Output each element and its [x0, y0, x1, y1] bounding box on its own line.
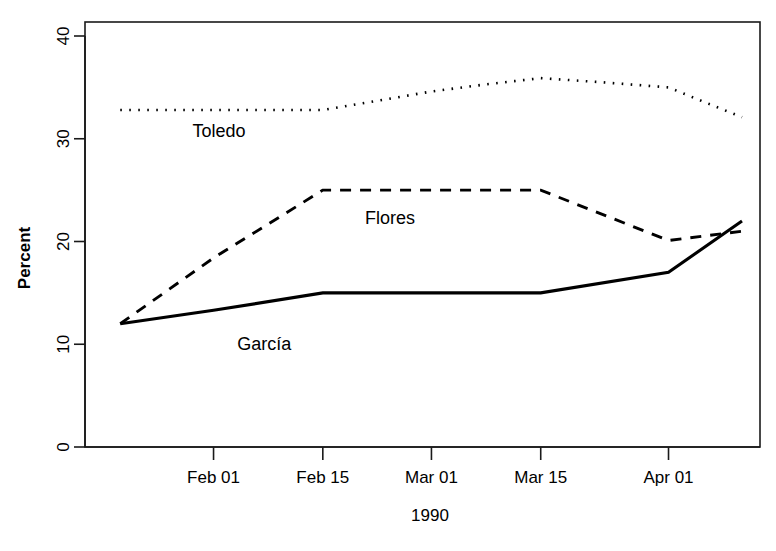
series-annotations: ToledoFloresGarcía — [192, 121, 415, 355]
series-line-flores — [120, 190, 742, 324]
chart-container: 010203040 Feb 01Feb 15Mar 01Mar 15Apr 01… — [0, 0, 776, 551]
y-tick-label: 30 — [54, 129, 73, 148]
x-axis-title: 1990 — [411, 506, 449, 525]
x-tick-label: Mar 15 — [514, 468, 567, 487]
x-tick-label: Mar 01 — [405, 468, 458, 487]
data-series-group — [120, 78, 742, 324]
series-line-garca — [120, 221, 742, 324]
x-tick-label: Apr 01 — [643, 468, 693, 487]
line-chart: 010203040 Feb 01Feb 15Mar 01Mar 15Apr 01… — [0, 0, 776, 551]
y-axis-title: Percent — [15, 226, 34, 289]
series-label-garca: García — [237, 334, 292, 354]
series-label-toledo: Toledo — [192, 121, 245, 141]
x-tick-label: Feb 15 — [296, 468, 349, 487]
y-axis: 010203040 — [54, 27, 86, 452]
series-line-toledo — [120, 78, 742, 117]
y-tick-label: 40 — [54, 27, 73, 46]
x-tick-label: Feb 01 — [187, 468, 240, 487]
x-axis: Feb 01Feb 15Mar 01Mar 15Apr 01 — [85, 447, 760, 487]
series-label-flores: Flores — [365, 208, 415, 228]
y-tick-label: 0 — [54, 442, 73, 451]
y-tick-label: 10 — [54, 335, 73, 354]
y-tick-label: 20 — [54, 232, 73, 251]
